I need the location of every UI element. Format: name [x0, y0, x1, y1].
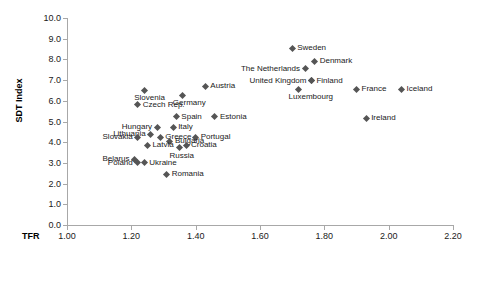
y-tick-label: 6.0 — [25, 97, 61, 106]
y-tick-label: 10.0 — [25, 14, 61, 23]
data-point-marker — [363, 115, 370, 122]
data-point-marker — [173, 113, 180, 120]
y-tick-label: 2.0 — [25, 180, 61, 189]
data-point-label: United Kingdom — [250, 77, 307, 85]
data-point-label: Poland — [108, 159, 133, 167]
data-point-label: Sweden — [297, 44, 326, 52]
data-point-label: Austria — [210, 82, 235, 90]
data-point-marker — [163, 171, 170, 178]
data-point-marker — [141, 159, 148, 166]
y-axis-line — [67, 18, 68, 226]
data-point-label: Czech Rep. — [143, 101, 185, 109]
data-point-label: Latvia — [152, 141, 173, 149]
data-point-marker — [134, 159, 141, 166]
y-tick-label: 8.0 — [25, 55, 61, 64]
data-point-label: The Netherlands — [241, 65, 300, 73]
x-tick-mark — [131, 226, 132, 230]
data-point-marker — [311, 58, 318, 65]
y-tick-label: 4.0 — [25, 138, 61, 147]
data-point-label: Denmark — [320, 57, 352, 65]
data-point-marker — [398, 86, 405, 93]
x-tick-label: 1.20 — [111, 232, 151, 241]
y-tick-mark — [63, 39, 67, 40]
x-tick-mark — [196, 226, 197, 230]
y-tick-label: 0.0 — [25, 221, 61, 230]
data-point-label: Croatia — [191, 141, 217, 149]
y-tick-label: 7.0 — [25, 76, 61, 85]
data-point-label: France — [362, 85, 387, 93]
data-point-marker — [353, 86, 360, 93]
data-point-marker — [170, 124, 177, 131]
data-point-label: Ukraine — [149, 159, 177, 167]
data-point-marker — [211, 113, 218, 120]
scatter-chart-figure: SDT Index TFR 0.01.02.03.04.05.06.07.08.… — [0, 0, 486, 282]
data-point-marker — [289, 44, 296, 51]
y-tick-label: 5.0 — [25, 118, 61, 127]
x-tick-label: 1.80 — [304, 232, 344, 241]
y-tick-mark — [63, 18, 67, 19]
y-tick-mark — [63, 142, 67, 143]
x-tick-label: 2.20 — [433, 232, 473, 241]
y-tick-mark — [63, 184, 67, 185]
y-tick-label: 9.0 — [25, 35, 61, 44]
data-point-label: Estonia — [220, 113, 247, 121]
y-tick-mark — [63, 204, 67, 205]
data-point-label: Spain — [181, 113, 201, 121]
y-tick-mark — [63, 59, 67, 60]
x-tick-label: 1.40 — [176, 232, 216, 241]
data-point-label: Italy — [178, 123, 193, 131]
x-tick-mark — [324, 226, 325, 230]
data-point-label: Finland — [316, 77, 342, 85]
data-point-label: Romania — [172, 170, 204, 178]
x-tick-mark — [260, 226, 261, 230]
y-tick-mark — [63, 122, 67, 123]
x-tick-label: 2.00 — [369, 232, 409, 241]
data-point-marker — [147, 131, 154, 138]
y-tick-mark — [63, 163, 67, 164]
data-point-label: Iceland — [407, 85, 433, 93]
x-tick-label: 1.60 — [240, 232, 280, 241]
y-tick-label: 3.0 — [25, 159, 61, 168]
data-point-label: Luxembourg — [289, 93, 333, 101]
y-tick-mark — [63, 80, 67, 81]
data-point-marker — [134, 101, 141, 108]
x-tick-mark — [67, 226, 68, 230]
data-point-marker — [308, 77, 315, 84]
x-tick-mark — [389, 226, 390, 230]
data-point-label: Slovakia — [103, 133, 133, 141]
data-point-marker — [301, 65, 308, 72]
y-tick-label: 1.0 — [25, 200, 61, 209]
x-tick-mark — [453, 226, 454, 230]
data-point-label: Ireland — [371, 114, 395, 122]
x-tick-label: 1.00 — [47, 232, 87, 241]
x-axis-title: TFR — [22, 232, 40, 241]
data-point-marker — [202, 83, 209, 90]
y-tick-mark — [63, 101, 67, 102]
data-point-marker — [154, 124, 161, 131]
data-point-marker — [144, 142, 151, 149]
